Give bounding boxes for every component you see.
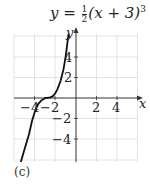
y-axis-arrow-icon — [74, 27, 79, 33]
y-tick-label: −2 — [52, 111, 71, 126]
x-tick-label: 2 — [92, 100, 100, 115]
y-axis-label: y — [65, 25, 74, 40]
axes — [14, 30, 140, 162]
y-tick-label: −4 — [52, 132, 71, 147]
x-tick-label: 4 — [112, 100, 120, 115]
function-graph-figure: y = 12(x + 3)3 — [0, 0, 150, 191]
plot-area: −4 −2 2 4 4 2 −2 −4 x y — [0, 0, 150, 191]
y-tick-label: 2 — [64, 70, 72, 85]
x-axis-label: x — [139, 96, 147, 111]
x-tick-label: −4 — [20, 100, 39, 115]
figure-caption: (c) — [14, 165, 30, 179]
y-tick-label: 4 — [64, 50, 72, 65]
